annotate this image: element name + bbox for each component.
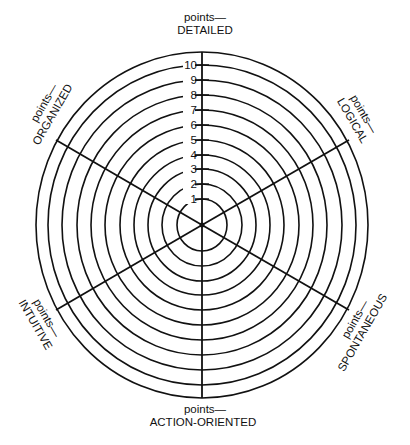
axis-label-logical: points— LOGICAL <box>335 89 382 145</box>
tick-7: 7 <box>191 104 197 116</box>
axis-label-action-oriented: points— ACTION-ORIENTED <box>150 403 257 428</box>
svg-text:points—: points— <box>184 11 227 23</box>
tick-6: 6 <box>191 119 197 131</box>
radar-diagram: 10 9 8 7 6 5 4 3 2 1 points— DETAILED po… <box>0 0 410 445</box>
tick-8: 8 <box>191 89 197 101</box>
tick-10: 10 <box>184 59 197 71</box>
svg-text:points—: points— <box>184 403 227 415</box>
tick-3: 3 <box>191 163 197 175</box>
scale-labels: 10 9 8 7 6 5 4 3 2 1 <box>183 58 198 205</box>
tick-9: 9 <box>191 74 197 86</box>
axis-label-detailed: points— DETAILED <box>177 11 232 36</box>
tick-4: 4 <box>191 149 198 161</box>
svg-text:ACTION-ORIENTED: ACTION-ORIENTED <box>150 416 257 428</box>
tick-1: 1 <box>191 193 197 205</box>
center-point <box>200 223 205 228</box>
svg-text:DETAILED: DETAILED <box>177 24 232 36</box>
tick-2: 2 <box>191 178 197 190</box>
tick-5: 5 <box>191 134 197 146</box>
axis-label-organized: points— ORGANIZED <box>19 75 75 147</box>
axis-label-intuitive: points— INTUITIVE <box>17 291 67 352</box>
